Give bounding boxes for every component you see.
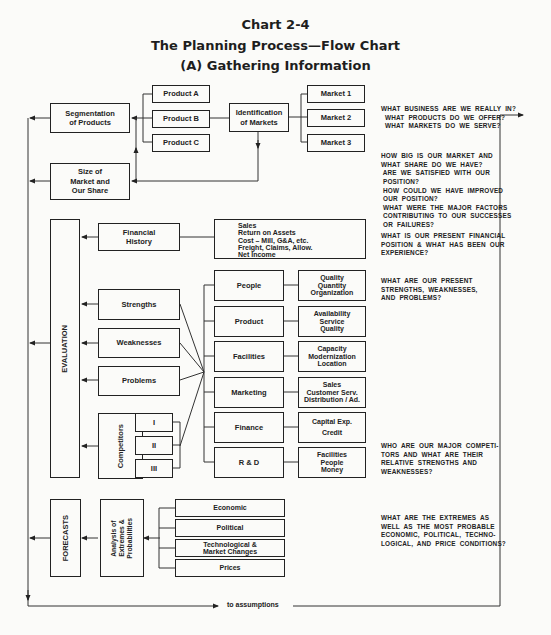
- finance-box: Finance: [214, 412, 284, 443]
- forecasts-box: FORECASTS: [50, 499, 81, 577]
- product-c-box: Product C: [152, 134, 210, 152]
- competitor-3-box: III: [135, 459, 173, 478]
- analysis-box: Analysis of Extremes & Probabilities: [100, 499, 144, 577]
- question-business: WHAT BUSINESS ARE WE REALLY IN? WHAT PRO…: [381, 105, 516, 131]
- product-a-box: Product A: [152, 85, 210, 103]
- competitor-2-box: II: [135, 436, 173, 455]
- financial-history-box: Financial History: [98, 223, 180, 251]
- identification-box: Identification of Markets: [229, 103, 289, 132]
- question-competitors: WHO ARE OUR MAJOR COMPETI- TORS AND WHAT…: [381, 442, 499, 477]
- question-market-size: HOW BIG IS OUR MARKET AND WHAT SHARE DO …: [381, 152, 511, 230]
- question-extremes: WHAT ARE THE EXTREMES AS WELL AS THE MOS…: [381, 514, 506, 549]
- people-box: People: [214, 270, 284, 301]
- facilities-detail-box: Capacity Modernization Location: [298, 341, 366, 372]
- competitor-1-box: I: [135, 413, 173, 432]
- evaluation-label: EVALUATION: [60, 325, 69, 373]
- rnd-detail-box: Facilities People Money: [298, 447, 366, 478]
- marketing-detail-box: Sales Customer Serv. Distribution / Ad.: [298, 377, 366, 408]
- people-detail-box: Quality Quantity Organization: [298, 270, 366, 301]
- finance-detail-box: Capital Exp. Credit: [298, 412, 366, 443]
- problems-box: Problems: [98, 366, 180, 396]
- prices-box: Prices: [175, 559, 285, 577]
- technological-box: Technological & Market Changes: [175, 539, 285, 557]
- analysis-label: Analysis of Extremes & Probabilities: [110, 518, 134, 559]
- market-3-box: Market 3: [307, 134, 365, 152]
- competitors-label: Competitors: [116, 424, 125, 468]
- strengths-box: Strengths: [98, 289, 180, 320]
- question-strengths: WHAT ARE OUR PRESENT STRENGTHS, WEAKNESS…: [381, 277, 478, 303]
- size-share-box: Size of Market and Our Share: [50, 163, 130, 200]
- financial-items-box: Sales Return on Assets Cost – Mill, G&A,…: [214, 219, 366, 259]
- rnd-box: R & D: [214, 447, 284, 478]
- market-1-box: Market 1: [307, 85, 365, 103]
- forecasts-label: FORECASTS: [61, 515, 70, 561]
- market-2-box: Market 2: [307, 109, 365, 127]
- to-assumptions-label: to assumptions: [224, 601, 282, 608]
- political-box: Political: [175, 519, 285, 537]
- product-box: Product: [214, 306, 284, 337]
- product-b-box: Product B: [152, 110, 210, 128]
- weaknesses-box: Weaknesses: [98, 328, 180, 358]
- marketing-box: Marketing: [214, 377, 284, 408]
- segmentation-box: Segmentation of Products: [50, 103, 130, 133]
- evaluation-box: EVALUATION: [50, 219, 80, 478]
- product-detail-box: Availability Service Quality: [298, 306, 366, 337]
- economic-box: Economic: [175, 499, 285, 517]
- facilities-box: Facilities: [214, 341, 284, 372]
- question-financial: WHAT IS OUR PRESENT FINANCIAL POSITION &…: [381, 232, 505, 258]
